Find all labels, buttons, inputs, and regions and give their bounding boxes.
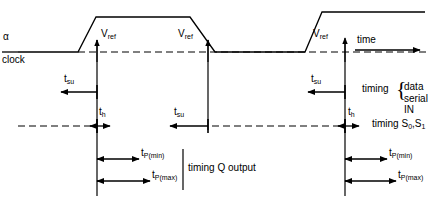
annotation-timing-q-output: timing Q output (188, 163, 256, 174)
measure-label-th-2: th (348, 107, 355, 118)
measure-label-th-1: th (99, 107, 106, 118)
clock-label-numerator: α (2, 31, 9, 42)
vref-label-1: Vref (101, 29, 116, 40)
annotation-data-serial-in: data serial IN (404, 81, 429, 116)
annotation-data-line1: data (404, 81, 429, 93)
measure-label-tpmax-1: tP(max) (152, 170, 177, 181)
measure-label-tpmin-1: tP(min) (141, 148, 164, 159)
vref-label-3: Vref (313, 29, 328, 40)
measure-label-tsu-2: tsu (174, 107, 184, 118)
vref-label-2: Vref (178, 29, 193, 40)
measure-arrow-tsu-1 (61, 85, 97, 99)
measure-label-tpmin-2: tP(min) (389, 148, 412, 159)
measure-arrow-th-2 (338, 119, 359, 133)
annotation-timing-prefix-data: timing (362, 84, 389, 95)
clock-waveform (18, 12, 425, 52)
annotation-data-line2: serial IN (404, 93, 429, 116)
measure-arrow-th-1 (90, 119, 110, 133)
clock-label-denominator: clock (2, 53, 25, 65)
measure-arrow-tsu-3 (308, 85, 345, 99)
clock-signal-label: α (2, 31, 9, 42)
measure-label-tsu-3: tsu (311, 74, 321, 85)
measure-label-tsu-1: tsu (64, 74, 74, 85)
measure-label-tpmax-2: tP(max) (398, 170, 423, 181)
timing-diagram-figure: α clock Vref Vref Vref time tsu th tsu t… (0, 0, 429, 200)
clock-signal-label-denominator-wrap: clock (2, 53, 25, 65)
annotation-timing-s0-s1: timing S0,S1 (372, 119, 425, 130)
measure-arrow-tsu-2 (170, 119, 208, 133)
time-axis-label: time (357, 35, 376, 46)
